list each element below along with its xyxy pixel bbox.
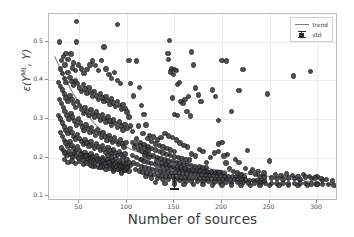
y-tick-mark (45, 157, 48, 158)
y-axis-label-suffix: , Y) (20, 49, 32, 66)
errorbar-vertical (174, 174, 175, 188)
y-tick-label: 0.5 (22, 37, 43, 44)
trend-line-icon (294, 20, 310, 29)
x-tick-label: 150 (158, 203, 188, 210)
y-tick-mark (45, 79, 48, 80)
legend-label-std: std (313, 32, 322, 38)
y-tick-mark (45, 118, 48, 119)
x-tick-label: 300 (301, 203, 331, 210)
x-tick-label: 50 (63, 203, 93, 210)
x-tick-label: 200 (206, 203, 236, 210)
legend-item-trend: trend (294, 20, 328, 29)
y-axis-label-superscript: ML (20, 66, 28, 75)
y-tick-mark (45, 195, 48, 196)
y-tick-label: 0.3 (22, 114, 43, 121)
legend-item-std: std (294, 30, 328, 39)
plot-area: trend std (48, 13, 337, 200)
y-tick-label: 0.1 (22, 191, 43, 198)
y-tick-label: 0.4 (22, 75, 43, 82)
errorbar-cap-bottom (170, 188, 179, 189)
scatter-plot-figure: ε(YML, Y) Number of sources trend (0, 0, 354, 237)
x-tick-label: 250 (254, 203, 284, 210)
y-tick-label: 0.2 (22, 153, 43, 160)
errorbar-icon (294, 30, 310, 39)
errorbar-cap-top (170, 174, 179, 175)
x-axis-label: Number of sources (48, 211, 337, 227)
legend-label-trend: trend (313, 22, 328, 28)
y-tick-mark (45, 41, 48, 42)
x-tick-label: 100 (111, 203, 141, 210)
legend: trend std (290, 17, 333, 42)
